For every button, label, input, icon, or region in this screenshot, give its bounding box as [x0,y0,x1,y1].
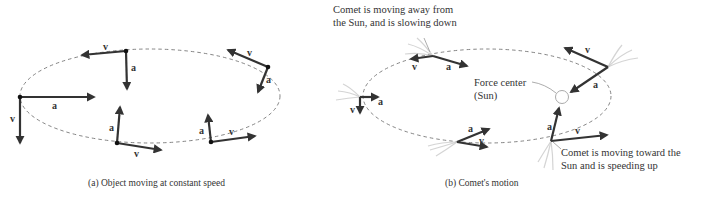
label-a: a [199,125,204,136]
label-a: a [378,96,383,107]
label-a: a [131,62,136,73]
label-v: v [575,125,580,136]
label-a: a [52,100,57,111]
label-a: a [446,61,451,72]
label-v: v [134,148,139,159]
label-a: a [468,123,473,134]
motion-diagram: a v v a v a a v [0,0,703,203]
label-a: a [593,79,598,90]
comet-tail [608,50,632,67]
point-top-a: v a [82,41,136,89]
label-v: v [10,113,15,124]
away-annotation-1: Comet is moving away from [333,4,453,15]
object-dot [266,65,271,70]
comet-bottom-left: a v [428,123,489,156]
away-annotation-2: the Sun, and is slowing down [333,17,457,28]
point-top-right-a: v a [228,47,271,92]
velocity-arrow [117,143,161,150]
comet-tail [551,141,553,170]
comet-tail [436,142,457,156]
label-v: v [585,44,590,55]
label-v: v [229,126,234,137]
force-center-label-2: (Sun) [474,90,498,102]
label-v: v [247,47,252,58]
toward-annotation-2: Sun and is speeding up [561,160,658,171]
label-v: v [479,135,484,146]
comet-top-right: v a [565,44,638,92]
label-v: v [350,104,355,115]
sun-icon [556,91,569,104]
force-center-label: Force center [474,77,527,88]
comet-tail [544,141,551,168]
acceleration-arrow [551,108,559,141]
object-dot [124,49,129,54]
point-bottom-left-a: a v [109,107,161,159]
comet-top-left: v a [405,38,467,72]
label-v: v [103,41,108,52]
away-leader [424,38,430,52]
comet-tail [336,97,360,100]
panel-b: Force center (Sun) v a Comet is moving a… [333,4,681,189]
label-v: v [412,61,417,72]
acceleration-arrow [208,115,211,142]
panel-a: a v v a v a a v [10,41,280,189]
comet-tail [343,84,360,97]
acceleration-arrow [571,67,608,92]
toward-annotation-1: Comet is moving toward the [561,147,681,158]
acceleration-arrow [126,51,127,89]
label-a: a [109,122,114,133]
object-dot [115,141,120,146]
caption-b: (b) Comet's motion [445,178,519,189]
acceleration-arrow [117,107,120,143]
toward-leader [553,142,561,149]
point-bottom-right-a: a v [199,115,255,144]
caption-a: (a) Object moving at constant speed [88,178,225,189]
velocity-arrow [411,56,433,59]
comet-left: a v [336,84,383,115]
acceleration-arrow [457,129,489,142]
force-center-leader [532,82,556,93]
label-a: a [266,74,271,85]
object-dot [18,95,23,100]
object-dot [209,140,214,145]
label-a: a [547,121,552,132]
